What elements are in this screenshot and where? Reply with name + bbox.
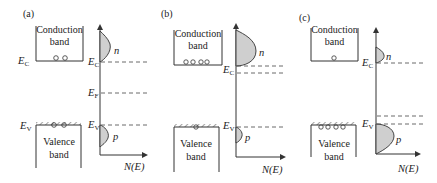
conduction-band-label: Conduction: [175, 28, 222, 39]
electron-icon: [54, 56, 59, 61]
ev-label: EV: [361, 118, 373, 131]
valence-band-label-2: band: [49, 149, 68, 160]
valence-band-label-2: band: [324, 151, 343, 162]
n-label: n: [259, 47, 264, 58]
hole-distribution: [100, 125, 108, 147]
ec-label: EC: [87, 56, 99, 69]
electron-icon: [205, 60, 209, 64]
ec-left-label: EC: [17, 55, 29, 68]
conduction-band-label-2: band: [188, 40, 207, 51]
conduction-band-label: Conduction: [311, 24, 358, 35]
panel-label: (c): [299, 12, 310, 24]
electron-icon: [191, 60, 195, 64]
ev-left-label: EV: [19, 120, 31, 133]
p-label: p: [395, 134, 401, 145]
dos-axis-label: N(E): [397, 163, 419, 175]
electron-distribution: [376, 47, 384, 63]
band-diagram-figure: (a) Conduction band EC Valence band EV N…: [0, 0, 437, 183]
p-label: p: [112, 131, 118, 142]
conduction-band-label: Conduction: [36, 24, 83, 35]
valence-band-box: [174, 127, 219, 172]
ev-label: EV: [222, 120, 234, 133]
electron-icon: [63, 56, 68, 61]
electron-distribution: [100, 31, 110, 62]
valence-band-label-2: band: [186, 151, 205, 162]
electron-icon: [199, 60, 203, 64]
dos-axis-label: N(E): [261, 164, 283, 176]
conduction-band-label-2: band: [325, 36, 344, 47]
valence-band-label: Valence: [43, 136, 75, 147]
electron-icon: [332, 56, 336, 60]
hole-distribution: [376, 124, 394, 154]
panel-label: (a): [23, 8, 34, 20]
n-label: n: [386, 51, 391, 62]
electron-icon: [184, 60, 188, 64]
n-label: n: [114, 45, 119, 56]
hole-distribution: [236, 127, 242, 143]
panel-b: (b) Conduction band Valence band N(E) n …: [161, 8, 285, 176]
panel-c: (c) Conduction band Valence band N(E) n …: [299, 12, 424, 175]
ec-label: EC: [222, 64, 234, 77]
ec-label: EC: [361, 57, 373, 70]
ef-label: EF: [87, 87, 98, 100]
ev-label: EV: [87, 119, 99, 132]
valence-band-label: Valence: [180, 138, 212, 149]
conduction-band-label-2: band: [50, 36, 69, 47]
valence-band-label: Valence: [318, 138, 350, 149]
dos-axis-label: N(E): [123, 161, 145, 173]
panel-a: (a) Conduction band EC Valence band EV N…: [17, 8, 148, 173]
panel-label: (b): [161, 8, 173, 20]
p-label: p: [244, 132, 250, 143]
electron-distribution: [236, 30, 256, 66]
